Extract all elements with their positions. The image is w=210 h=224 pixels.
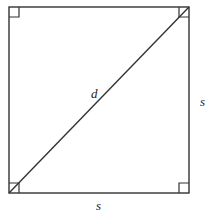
right-angle-marker-top-left — [9, 7, 19, 17]
square-diagonal-diagram: d s s — [0, 0, 210, 224]
diagonal-label: d — [91, 86, 98, 101]
bottom-side-label: s — [96, 198, 101, 213]
right-side-label: s — [200, 94, 205, 109]
right-angle-marker-bottom-right — [179, 183, 189, 193]
diagonal-line — [9, 7, 189, 193]
